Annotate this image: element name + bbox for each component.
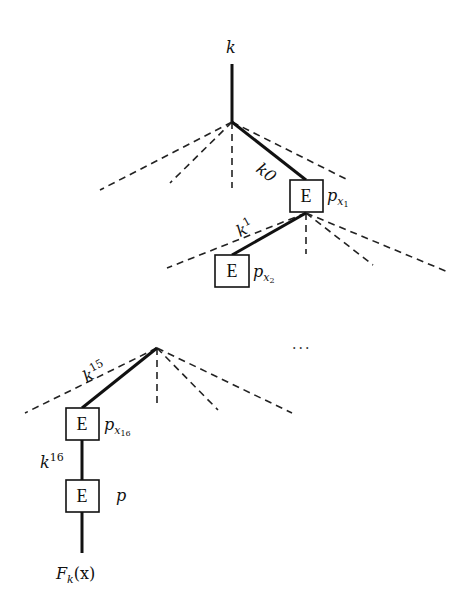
node-4-label: p	[116, 488, 126, 504]
node-2-label: px2	[253, 264, 275, 285]
node3-dashed-branches	[25, 348, 292, 413]
output-label: Fk(x)	[56, 566, 95, 585]
node-3-label: px16	[104, 417, 131, 438]
node-1-label: px1	[327, 188, 349, 209]
e-box-4-label: E	[66, 481, 98, 511]
edge-label-k16: k16	[40, 452, 64, 471]
root-key-label: k	[226, 40, 236, 56]
e-box-1-label: E	[290, 181, 322, 211]
ellipsis: ...	[292, 336, 311, 352]
node2-dashed-branches	[167, 213, 448, 272]
e-box-3-label: E	[66, 409, 98, 439]
tree-diagram	[0, 0, 474, 616]
e-box-2-label: E	[216, 256, 248, 286]
